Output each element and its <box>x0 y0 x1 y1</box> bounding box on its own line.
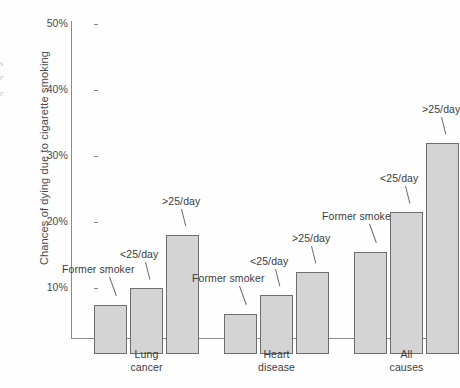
category-label-line: causes <box>362 361 452 374</box>
bar-annotation-label: <25/day <box>120 248 158 260</box>
bar-annotation-leader-line <box>311 245 316 263</box>
bar-annotation-label: <25/day <box>250 255 288 267</box>
y-axis-tick-mark <box>94 90 98 91</box>
margin-text-fragment: s <box>0 58 4 68</box>
bar-annotation-leader-line <box>145 262 150 280</box>
bar <box>426 143 459 354</box>
bar-annotation-label: Former smoker <box>192 272 264 284</box>
bar-annotation-label: >25/day <box>292 232 330 244</box>
bar <box>390 212 423 354</box>
bar-annotation-leader-line <box>109 276 117 295</box>
bar-annotation-label: >25/day <box>422 103 460 115</box>
bar-annotation-leader-line <box>405 186 410 204</box>
y-axis-title: Chances of dying due to cigarette smokin… <box>38 28 50 288</box>
y-axis-tick-mark <box>94 222 98 223</box>
bar-annotation-label: Former smoker <box>62 263 134 275</box>
bar-annotation-leader-line <box>369 224 377 243</box>
bar-annotation-leader-line <box>441 117 446 135</box>
margin-text-fragment: r <box>0 72 4 82</box>
margin-text-fragment: r. <box>0 88 5 98</box>
bar-annotation-leader-line <box>239 286 247 305</box>
bar <box>130 288 163 354</box>
bar-annotation-label: >25/day <box>162 195 200 207</box>
category-label-line: Heart <box>232 348 322 361</box>
bar-annotation-leader-line <box>181 209 186 227</box>
y-axis-tick-mark <box>94 288 98 289</box>
bar <box>260 295 293 354</box>
category-label-line: disease <box>232 361 322 374</box>
bar-annotation-label: Former smoker <box>322 210 394 222</box>
bar <box>354 252 387 354</box>
bar-annotation-leader-line <box>275 268 280 286</box>
x-axis-category-label: Lungcancer <box>102 348 192 374</box>
bar <box>94 305 127 355</box>
category-label-line: Lung <box>102 348 192 361</box>
bar <box>166 235 199 354</box>
bar <box>296 272 329 355</box>
category-label-line: cancer <box>102 361 192 374</box>
category-label-line: All <box>362 348 452 361</box>
x-axis-category-label: Heartdisease <box>232 348 322 374</box>
y-axis-tick-mark <box>94 24 98 25</box>
x-axis-category-label: Allcauses <box>362 348 452 374</box>
y-axis-line <box>71 21 72 339</box>
y-axis-tick-mark <box>94 156 98 157</box>
bar-annotation-label: <25/day <box>380 172 418 184</box>
